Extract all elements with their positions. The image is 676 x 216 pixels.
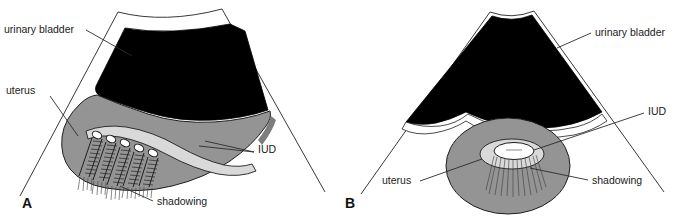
label-iud-a: IUD <box>258 143 277 155</box>
iud-ultrasound-diagram: urinary bladder uterus IUD shadowing A <box>0 0 676 216</box>
panel-letter-b: B <box>345 195 355 211</box>
panel-letter-a: A <box>22 195 32 211</box>
label-iud-b: IUD <box>648 105 667 117</box>
figure-root: urinary bladder uterus IUD shadowing A <box>0 0 676 216</box>
label-urinary-bladder-b: urinary bladder <box>595 26 666 38</box>
iud-reflector-b <box>494 143 534 160</box>
label-urinary-bladder-a: urinary bladder <box>4 23 75 35</box>
label-uterus-a: uterus <box>6 84 35 96</box>
label-shadowing-b: shadowing <box>592 174 642 186</box>
label-shadowing-a: shadowing <box>157 195 207 207</box>
label-uterus-b: uterus <box>382 174 411 186</box>
